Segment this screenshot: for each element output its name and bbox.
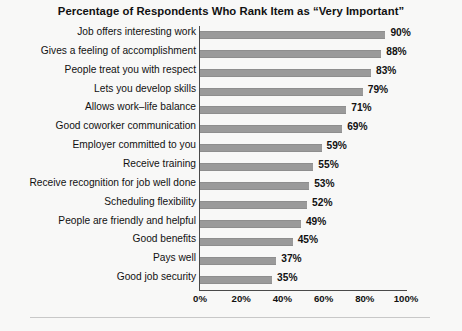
x-tick-label: 80%	[355, 293, 374, 304]
bar-row: Pays well37%	[200, 252, 406, 271]
x-tick-label: 100%	[394, 293, 419, 304]
bar	[200, 144, 322, 152]
bar-row: Good benefits45%	[200, 233, 406, 252]
category-label: Pays well	[0, 252, 196, 263]
category-label: People are friendly and helpful	[0, 215, 196, 226]
chart-title: Percentage of Respondents Who Rank Item …	[0, 5, 462, 17]
bar-row: People are friendly and helpful49%	[200, 215, 406, 234]
bar	[200, 163, 313, 171]
bar	[200, 106, 346, 114]
bar-value-label: 55%	[318, 159, 338, 170]
category-label: Scheduling flexibility	[0, 196, 196, 207]
category-label: Good coworker communication	[0, 120, 196, 131]
bar-value-label: 49%	[306, 216, 326, 227]
bar-value-label: 79%	[368, 84, 388, 95]
bar	[200, 182, 309, 190]
bar-row: Lets you develop skills79%	[200, 83, 406, 102]
bar-row: Gives a feeling of accomplishment88%	[200, 45, 406, 64]
bar-value-label: 69%	[347, 121, 367, 132]
category-label: Job offers interesting work	[0, 26, 196, 37]
bar-row: Allows work–life balance71%	[200, 101, 406, 120]
bar-value-label: 52%	[312, 197, 332, 208]
bar	[200, 257, 276, 265]
bar-row: People treat you with respect83%	[200, 64, 406, 83]
bar-value-label: 88%	[386, 46, 406, 57]
bar-row: Good job security35%	[200, 271, 406, 290]
bar	[200, 276, 272, 284]
category-label: Good benefits	[0, 233, 196, 244]
bar-value-label: 37%	[281, 253, 301, 264]
x-tick-label: 20%	[232, 293, 251, 304]
x-tick-label: 0%	[193, 293, 207, 304]
bar	[200, 125, 342, 133]
category-label: Receive training	[0, 158, 196, 169]
bar	[200, 201, 307, 209]
category-label: Receive recognition for job well done	[0, 177, 196, 188]
bar	[200, 88, 363, 96]
bar-value-label: 35%	[277, 272, 297, 283]
bar-value-label: 45%	[298, 234, 318, 245]
bar-value-label: 59%	[327, 140, 347, 151]
bar-value-label: 90%	[390, 27, 410, 38]
category-label: Lets you develop skills	[0, 83, 196, 94]
x-axis-line	[199, 290, 407, 291]
bar-row: Receive training55%	[200, 158, 406, 177]
bar-row: Employer committed to you59%	[200, 139, 406, 158]
bar-value-label: 71%	[351, 102, 371, 113]
bar-value-label: 83%	[376, 65, 396, 76]
category-label: People treat you with respect	[0, 64, 196, 75]
bar-row: Scheduling flexibility52%	[200, 196, 406, 215]
bar	[200, 50, 381, 58]
bar	[200, 220, 301, 228]
category-label: Employer committed to you	[0, 139, 196, 150]
bar-value-label: 53%	[314, 178, 334, 189]
category-label: Gives a feeling of accomplishment	[0, 45, 196, 56]
bar	[200, 238, 293, 246]
bar	[200, 31, 385, 39]
category-label: Good job security	[0, 271, 196, 282]
bar-row: Receive recognition for job well done53%	[200, 177, 406, 196]
bar-chart: Percentage of Respondents Who Rank Item …	[0, 0, 462, 331]
plot-area: Job offers interesting work90%Gives a fe…	[200, 26, 406, 290]
bar-row: Job offers interesting work90%	[200, 26, 406, 45]
x-tick-label: 40%	[273, 293, 292, 304]
x-tick-label: 60%	[314, 293, 333, 304]
footer-rule	[30, 317, 430, 318]
bar-row: Good coworker communication69%	[200, 120, 406, 139]
bar	[200, 69, 371, 77]
category-label: Allows work–life balance	[0, 101, 196, 112]
